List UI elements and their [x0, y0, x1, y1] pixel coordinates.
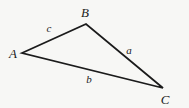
triangle-figure: A B C c a b: [0, 0, 189, 108]
side-label-c: c: [47, 23, 52, 34]
triangle-outline: [22, 24, 163, 88]
vertex-label-a: A: [9, 47, 17, 60]
vertex-label-b: B: [81, 6, 89, 19]
vertex-label-c: C: [161, 93, 170, 106]
side-label-b: b: [86, 74, 92, 85]
side-label-a: a: [126, 45, 132, 56]
